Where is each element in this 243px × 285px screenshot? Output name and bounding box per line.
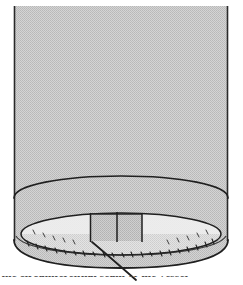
panel-fill xyxy=(90,214,142,241)
panel-assembly xyxy=(90,212,142,242)
vessel-illustration xyxy=(0,0,243,285)
figure-root: the circumferential seam of the vessel xyxy=(0,0,243,285)
